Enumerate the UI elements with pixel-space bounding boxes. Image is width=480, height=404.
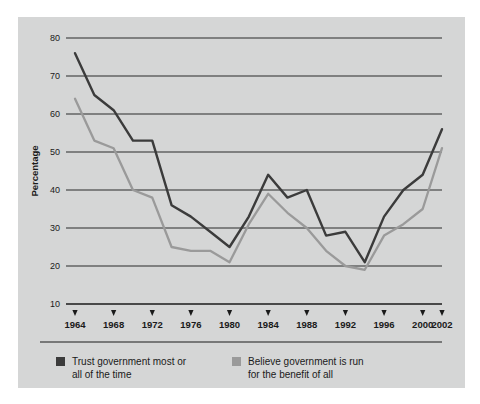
x-tick-marker-1972 (150, 310, 155, 316)
x-tick-label-1976: 1976 (180, 319, 201, 330)
chart-page: 80 70 60 50 40 30 20 10 Percentage 19641… (0, 0, 480, 404)
x-tick-marker-2002 (439, 310, 444, 316)
legend-swatch-trust-government (56, 357, 65, 366)
series-line-believe-government-benefit-of-all (75, 99, 442, 270)
y-tick-20: 20 (50, 261, 60, 271)
y-tick-50: 50 (50, 147, 60, 157)
x-tick-marker-1992 (343, 310, 348, 316)
y-tick-30: 30 (50, 223, 60, 233)
x-tick-label-1996: 1996 (373, 319, 394, 330)
x-tick-marker-1984 (266, 310, 271, 316)
legend-label-trust-government-line2: all of the time (72, 369, 132, 380)
x-tick-label-2002: 2002 (431, 319, 452, 330)
y-tick-70: 70 (50, 71, 60, 81)
legend-label-trust-government-line1: Trust government most or (72, 356, 187, 367)
x-tick-label-1968: 1968 (103, 319, 124, 330)
x-tick-label-1988: 1988 (296, 319, 317, 330)
x-tick-marker-1968 (111, 310, 116, 316)
x-tick-label-1964: 1964 (64, 319, 86, 330)
y-tick-10: 10 (50, 299, 60, 309)
y-tick-80: 80 (50, 33, 60, 43)
x-axis-tick-labels: 1964196819721976198019841988199219962000… (64, 319, 452, 330)
x-tick-marker-1988 (304, 310, 309, 316)
legend-label-believe-government-line1: Believe government is run (248, 356, 364, 367)
gridlines (66, 38, 442, 266)
x-tick-label-1992: 1992 (335, 319, 356, 330)
x-tick-label-2000: 2000 (412, 319, 433, 330)
y-axis-title: Percentage (29, 145, 40, 196)
x-axis-ticks (72, 310, 444, 316)
x-tick-marker-1964 (72, 310, 77, 316)
series-line-trust-government (75, 53, 442, 262)
x-tick-marker-1976 (188, 310, 193, 316)
legend-label-believe-government-line2: for the benefit of all (248, 369, 333, 380)
legend: Trust government most or all of the time… (56, 356, 364, 380)
line-chart-plot: 80 70 60 50 40 30 20 10 Percentage 19641… (18, 17, 465, 388)
x-tick-label-1980: 1980 (219, 319, 240, 330)
y-tick-40: 40 (50, 185, 60, 195)
x-tick-marker-1980 (227, 310, 232, 316)
x-tick-marker-1996 (381, 310, 386, 316)
y-tick-60: 60 (50, 109, 60, 119)
x-tick-marker-2000 (420, 310, 425, 316)
x-tick-label-1972: 1972 (142, 319, 163, 330)
chart-panel: 80 70 60 50 40 30 20 10 Percentage 19641… (18, 17, 465, 388)
legend-swatch-believe-government (232, 357, 241, 366)
y-axis-tick-labels: 80 70 60 50 40 30 20 10 (50, 33, 60, 309)
x-tick-label-1984: 1984 (258, 319, 280, 330)
